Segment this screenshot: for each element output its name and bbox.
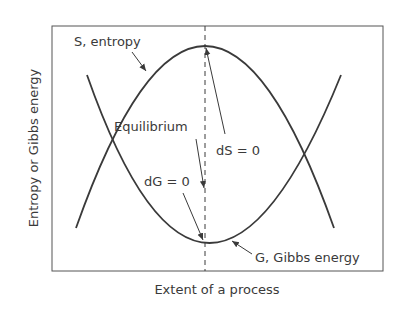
y-axis-label: Entropy or Gibbs energy xyxy=(26,68,41,227)
gibbs-curve-label: G, Gibbs energy xyxy=(255,250,360,265)
entropy-label-arrow xyxy=(132,52,146,71)
diagram-canvas: S, entropy Equilibrium dS = 0 dG = 0 G, … xyxy=(0,0,401,315)
gibbs-label-arrow xyxy=(232,241,252,254)
dS-arrow xyxy=(206,48,225,134)
gibbs-curve xyxy=(87,75,341,243)
dS-label: dS = 0 xyxy=(216,143,260,158)
equilibrium-label: Equilibrium xyxy=(114,119,188,134)
equilibrium-arrow xyxy=(196,139,204,188)
dG-arrow xyxy=(183,193,203,240)
dG-label: dG = 0 xyxy=(144,174,190,189)
x-axis-label: Extent of a process xyxy=(154,282,279,297)
entropy-curve-label: S, entropy xyxy=(74,34,141,49)
